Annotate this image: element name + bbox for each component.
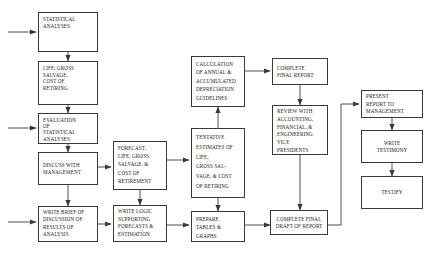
node-line: TESTIMONY bbox=[377, 147, 408, 154]
node-line: OF RETIRING bbox=[196, 182, 241, 192]
node-line: WRITE LOGIC bbox=[118, 208, 163, 216]
node-line: DISCUSSION OF bbox=[43, 216, 94, 223]
node-line: TESTIFY bbox=[381, 189, 402, 196]
node-write-testimony[interactable]: WRITE TESTIMONY bbox=[361, 130, 423, 163]
node-line: LIFE, bbox=[196, 153, 241, 163]
node-forecast[interactable]: FORECAST: LIFE, GROSS SALVAGE, & COST OF… bbox=[113, 141, 167, 190]
node-write-brief[interactable]: WRITE BRIEF OF DISCUSSION OF RESULTS OF … bbox=[38, 206, 98, 242]
node-line: PRESENT bbox=[366, 93, 419, 101]
node-line: MANAGEMENT bbox=[43, 169, 81, 176]
node-line: STATISTICAL bbox=[43, 16, 94, 23]
node-review-with[interactable]: REVIEW WITH ACCOUNTING, FINANCIAL, & ENG… bbox=[272, 105, 328, 155]
node-line: LIFE, GROSS bbox=[118, 152, 163, 160]
node-line: FORECAST: bbox=[118, 144, 163, 152]
node-line: LIFE, GROSS bbox=[43, 65, 94, 72]
node-line: ENGINEERING bbox=[277, 131, 324, 139]
edge-finaldraft-to-present bbox=[328, 104, 359, 225]
node-line: SALVAGE, & bbox=[118, 160, 163, 168]
node-line: COST OF bbox=[118, 169, 163, 177]
node-line: VICE bbox=[277, 139, 324, 147]
node-line: CALCULATION bbox=[196, 60, 241, 68]
node-calculation[interactable]: CALCULATION OF ANNUAL & ACCUMULATED DEPR… bbox=[191, 56, 245, 107]
node-line: DRAFT OF REPORT bbox=[276, 223, 323, 230]
node-discuss-management[interactable]: DISCUSS WITH MANAGEMENT bbox=[38, 152, 98, 185]
node-prepare-tables[interactable]: PREPARE TABLES & GRAPHS bbox=[191, 211, 245, 242]
node-line: ESTIMATES OF bbox=[196, 143, 241, 153]
node-line: RESULTS OF bbox=[43, 224, 94, 231]
node-present-report[interactable]: PRESENT REPORT TO MANAGEMENT bbox=[361, 90, 423, 118]
node-line: ANALYSES bbox=[43, 136, 94, 142]
node-evaluation[interactable]: EVALUATION OF STATISTICAL ANALYSES bbox=[38, 113, 98, 144]
node-line: REVIEW WITH bbox=[277, 108, 324, 116]
node-line: DEPRECIATION bbox=[196, 85, 241, 93]
node-line: ACCUMULATED bbox=[196, 77, 241, 85]
node-life-gross-salvage[interactable]: LIFE, GROSS SALVAGE, COST OF RETIRING bbox=[38, 61, 98, 105]
node-line: SALVAGE, bbox=[43, 72, 94, 79]
node-line: ANALYSIS bbox=[43, 231, 94, 238]
node-complete-final-draft[interactable]: COMPLETE FINAL DRAFT OF REPORT bbox=[270, 210, 328, 235]
node-line: FINAL REPORT bbox=[277, 72, 314, 79]
node-tentative-estimates[interactable]: TENTATIVE ESTIMATES OF LIFE, GROSS SAL- … bbox=[191, 128, 245, 198]
node-line: DISCUSS WITH bbox=[43, 162, 81, 169]
node-line: SUPPORTING bbox=[118, 216, 163, 224]
node-line: OF ANNUAL & bbox=[196, 68, 241, 76]
node-line: PREPARE bbox=[196, 215, 241, 223]
node-line: GROSS SAL- bbox=[196, 162, 241, 172]
node-line: VAGE, & COST bbox=[196, 172, 241, 182]
node-line: ESTIMATION bbox=[118, 231, 163, 239]
node-testify[interactable]: TESTIFY bbox=[361, 176, 423, 209]
node-line: MANAGEMENT bbox=[366, 108, 419, 116]
node-line: COST OF bbox=[43, 78, 94, 85]
node-statistical-analyses[interactable]: STATISTICAL ANALYSES bbox=[38, 12, 98, 52]
node-line: COMPLETE FINAL bbox=[276, 216, 323, 223]
node-line: GUIDELINES bbox=[196, 94, 241, 102]
node-line: REPORT TO bbox=[366, 101, 419, 109]
node-line: COMPLETE bbox=[277, 65, 314, 72]
node-line: FORECASTS & bbox=[118, 223, 163, 231]
node-line: GRAPHS bbox=[196, 232, 241, 240]
node-line: RETIRING bbox=[43, 85, 94, 92]
flowchart-canvas: STATISTICAL ANALYSES LIFE, GROSS SALVAGE… bbox=[0, 0, 432, 258]
node-line: WRITE BRIEF OF bbox=[43, 209, 94, 216]
node-line: PRESIDENTS bbox=[277, 147, 324, 155]
node-line: WRITE bbox=[377, 140, 408, 147]
node-line: RETIREMENT bbox=[118, 177, 163, 185]
node-line: FINANCIAL, & bbox=[277, 124, 324, 132]
node-line: ANALYSES bbox=[43, 23, 94, 30]
node-line: ACCOUNTING, bbox=[277, 116, 324, 124]
node-line: TENTATIVE bbox=[196, 133, 241, 143]
node-write-logic[interactable]: WRITE LOGIC SUPPORTING FORECASTS & ESTIM… bbox=[113, 205, 167, 242]
node-complete-final-report[interactable]: COMPLETE FINAL REPORT bbox=[272, 58, 328, 85]
node-line: TABLES & bbox=[196, 223, 241, 231]
